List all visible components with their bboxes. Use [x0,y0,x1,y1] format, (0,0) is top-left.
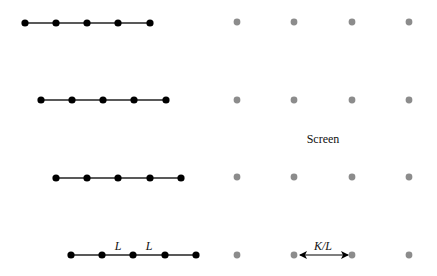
chain-particle-dot [146,174,153,181]
spacing-label-l-1: L [114,239,122,253]
screen-pixel-dot [234,97,241,104]
diagram-canvas: Screen L L K/L [0,0,437,276]
chain-particle-dot [83,174,90,181]
screen-pixel-dot [291,97,298,104]
chain-particle-dot [52,19,59,26]
screen-pixel-dot [234,19,241,26]
screen-pixel-dot [406,174,413,181]
screen-label: Screen [307,132,340,146]
screen-spacing-label: K/L [313,239,332,253]
particle-chain-4 [67,251,199,258]
chain-particle-dot [21,19,28,26]
screen-pixel-dot [349,97,356,104]
spacing-label-l-2: L [145,239,153,253]
chain-particle-dot [192,251,199,258]
particle-chains [21,19,199,258]
chain-particle-dot [52,174,59,181]
screen-pixel-dot [406,19,413,26]
screen-pixel-dot [349,252,356,259]
screen-pixel-dot [291,174,298,181]
chain-particle-dot [162,96,169,103]
chain-particle-dot [114,174,121,181]
chain-particle-dot [68,96,75,103]
chain-particle-dot [67,251,74,258]
particle-chain-3 [52,174,184,181]
particle-chain-2 [37,96,169,103]
chain-particle-dot [177,174,184,181]
screen-pixel-dot [234,174,241,181]
screen-pixel-dot [349,19,356,26]
chain-particle-dot [83,19,90,26]
chain-particle-dot [37,96,44,103]
chain-particle-dot [146,19,153,26]
screen-pixel-dot [406,97,413,104]
screen-pixel-dot [291,19,298,26]
chain-particle-dot [129,251,136,258]
chain-particle-dot [114,19,121,26]
screen-pixel-dot [291,252,298,259]
particle-chain-1 [21,19,153,26]
screen-pixel-dot [234,252,241,259]
chain-particle-dot [130,96,137,103]
chain-particle-dot [98,251,105,258]
screen-pixel-dot [349,174,356,181]
chain-particle-dot [161,251,168,258]
screen-pixel-dot [406,252,413,259]
chain-particle-dot [99,96,106,103]
